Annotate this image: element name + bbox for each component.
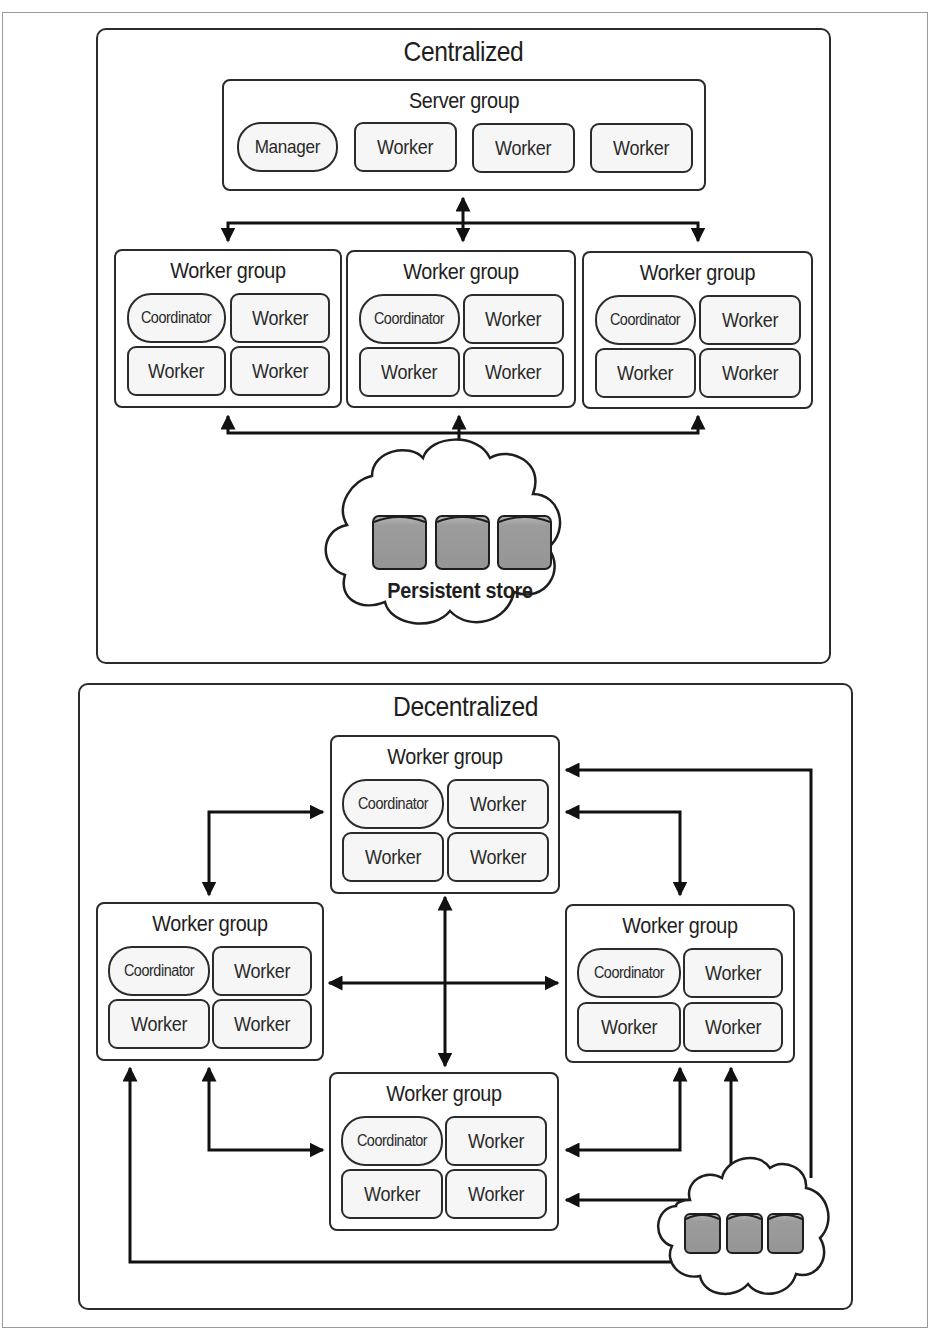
worker-node: Worker <box>463 347 564 397</box>
coordinator-node: Coordinator <box>359 294 460 344</box>
worker-node: Worker <box>445 1116 547 1166</box>
worker-node: Worker <box>341 1169 443 1219</box>
worker-node: Worker <box>359 347 460 397</box>
decentralized-worker-group-right: Worker group Coordinator Worker Worker W… <box>565 904 795 1063</box>
worker-node: Worker <box>683 1002 783 1052</box>
centralized-worker-group-1: Worker group Coordinator Worker Worker W… <box>114 249 342 408</box>
worker-group-title: Worker group <box>595 260 799 286</box>
server-group-title: Server group <box>248 88 680 114</box>
worker-node: Worker <box>463 294 564 344</box>
worker-group-title: Worker group <box>343 744 546 770</box>
worker-node: Worker <box>354 122 457 172</box>
worker-node: Worker <box>342 832 444 882</box>
worker-node: Worker <box>127 346 226 396</box>
worker-node: Worker <box>472 123 575 173</box>
worker-node: Worker <box>447 779 549 829</box>
worker-node: Worker <box>445 1169 547 1219</box>
worker-node: Worker <box>590 123 693 173</box>
centralized-title: Centralized <box>142 36 785 68</box>
worker-group-title: Worker group <box>109 911 311 937</box>
manager-node: Manager <box>237 122 338 172</box>
worker-node: Worker <box>595 348 696 398</box>
coordinator-node: Coordinator <box>341 1116 443 1166</box>
worker-node: Worker <box>699 348 801 398</box>
decentralized-worker-group-left: Worker group Coordinator Worker Worker W… <box>96 902 324 1061</box>
decentralized-worker-group-bottom: Worker group Coordinator Worker Worker W… <box>329 1072 559 1231</box>
worker-node: Worker <box>230 293 330 343</box>
worker-node: Worker <box>577 1002 681 1052</box>
worker-node: Worker <box>212 999 312 1049</box>
coordinator-node: Coordinator <box>127 293 226 343</box>
coordinator-node: Coordinator <box>342 779 444 829</box>
worker-group-title: Worker group <box>578 913 781 939</box>
worker-node: Worker <box>699 295 801 345</box>
persistent-store-label: Persistent store <box>370 578 550 604</box>
centralized-worker-group-2: Worker group Coordinator Worker Worker W… <box>346 250 576 408</box>
centralized-worker-group-3: Worker group Coordinator Worker Worker W… <box>582 251 813 409</box>
decentralized-title: Decentralized <box>126 691 804 723</box>
coordinator-node: Coordinator <box>577 948 681 998</box>
worker-node: Worker <box>447 832 549 882</box>
coordinator-node: Coordinator <box>108 946 210 996</box>
worker-group-title: Worker group <box>359 259 562 285</box>
decentralized-worker-group-top: Worker group Coordinator Worker Worker W… <box>330 735 560 894</box>
worker-node: Worker <box>212 946 312 996</box>
coordinator-node: Coordinator <box>595 295 696 345</box>
server-group: Server group Manager Worker Worker Worke… <box>222 79 706 191</box>
worker-node: Worker <box>108 999 210 1049</box>
worker-group-title: Worker group <box>342 1081 545 1107</box>
worker-group-title: Worker group <box>127 258 329 284</box>
worker-node: Worker <box>683 948 783 998</box>
worker-node: Worker <box>230 346 330 396</box>
